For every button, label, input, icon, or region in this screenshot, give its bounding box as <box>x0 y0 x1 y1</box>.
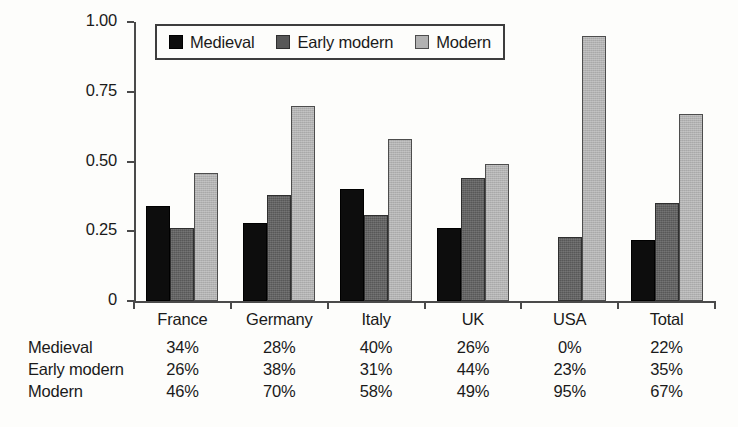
table-cell: 58% <box>328 382 425 401</box>
table-cell: 26% <box>425 338 522 357</box>
y-axis-tick: 1.00 <box>127 21 134 23</box>
legend-swatch-icon <box>276 35 290 49</box>
plot-area: 00.250.500.751.00 <box>134 22 715 301</box>
table-cell: 0% <box>521 338 618 357</box>
table-cell: 67% <box>618 382 715 401</box>
y-axis-tick: 0.50 <box>127 161 134 163</box>
table-row-label: Modern <box>28 382 83 401</box>
table-row-label: Medieval <box>28 338 92 357</box>
bar <box>558 237 582 301</box>
y-axis-tick-label: 0.50 <box>86 151 117 170</box>
table-cell: 26% <box>134 360 231 379</box>
y-axis-tick-label: 0.25 <box>86 220 117 239</box>
legend-swatch-icon <box>415 35 429 49</box>
y-axis-tick: 0.25 <box>127 230 134 232</box>
x-axis-tick <box>133 301 135 309</box>
x-axis-tick <box>327 301 329 309</box>
table-cell: 28% <box>231 338 328 357</box>
table-row: Medieval34%28%40%26%0%22% <box>0 338 738 360</box>
table-cell: 70% <box>231 382 328 401</box>
table-cell: 49% <box>425 382 522 401</box>
category-label: UK <box>425 310 522 329</box>
legend-item: Modern <box>415 33 491 52</box>
bar <box>146 206 170 301</box>
x-axis-tick <box>520 301 522 309</box>
x-axis-tick <box>714 301 716 309</box>
table-cell: 95% <box>521 382 618 401</box>
table-cell: 40% <box>328 338 425 357</box>
category-label: Germany <box>231 310 328 329</box>
category-label: France <box>134 310 231 329</box>
legend-label: Modern <box>436 33 491 52</box>
bar <box>485 164 509 301</box>
bar <box>170 228 194 301</box>
chart-legend: MedievalEarly modernModern <box>155 24 505 60</box>
bar <box>631 240 655 301</box>
table-cell: 38% <box>231 360 328 379</box>
bar <box>582 36 606 301</box>
bar <box>194 173 218 301</box>
bar-group <box>437 22 509 301</box>
y-axis-tick-label: 1.00 <box>86 11 117 30</box>
x-axis-tick <box>617 301 619 309</box>
bar-group <box>631 22 703 301</box>
bar-group <box>146 22 218 301</box>
bar <box>340 189 364 301</box>
table-row: Early modern26%38%31%44%23%35% <box>0 360 738 382</box>
y-axis-tick: 0.75 <box>127 91 134 93</box>
legend-item: Early modern <box>276 33 393 52</box>
bar <box>655 203 679 301</box>
bar-group <box>243 22 315 301</box>
category-label: Total <box>618 310 715 329</box>
table-cell: 23% <box>521 360 618 379</box>
x-axis-tick <box>230 301 232 309</box>
bar-group <box>340 22 412 301</box>
table-row-label: Early modern <box>28 360 124 379</box>
bar <box>267 195 291 301</box>
bar <box>437 228 461 301</box>
bar-group <box>534 22 606 301</box>
legend-swatch-icon <box>169 35 183 49</box>
table-cell: 22% <box>618 338 715 357</box>
table-cell: 35% <box>618 360 715 379</box>
y-axis-line <box>134 22 136 302</box>
table-row: Modern46%70%58%49%95%67% <box>0 382 738 404</box>
bar <box>461 178 485 301</box>
bar <box>679 114 703 301</box>
bar-chart-figure: 00.250.500.751.00 MedievalEarly modernMo… <box>0 0 738 427</box>
bar <box>291 106 315 301</box>
bar <box>388 139 412 301</box>
table-cell: 46% <box>134 382 231 401</box>
bar <box>364 215 388 301</box>
legend-item: Medieval <box>169 33 254 52</box>
table-cell: 31% <box>328 360 425 379</box>
y-axis-tick-label: 0.75 <box>86 81 117 100</box>
table-cell: 34% <box>134 338 231 357</box>
category-label: USA <box>521 310 618 329</box>
x-axis-tick <box>424 301 426 309</box>
bar <box>243 223 267 301</box>
category-label: Italy <box>328 310 425 329</box>
table-cell: 44% <box>425 360 522 379</box>
legend-label: Early modern <box>297 33 393 52</box>
y-axis-tick-label: 0 <box>108 290 117 309</box>
data-table: Medieval34%28%40%26%0%22%Early modern26%… <box>0 338 738 404</box>
legend-label: Medieval <box>190 33 254 52</box>
